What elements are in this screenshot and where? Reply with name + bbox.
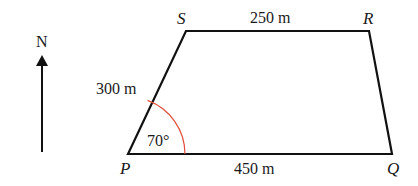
vertex-label-s: S	[177, 10, 186, 27]
side-label-sr: 250 m	[250, 10, 290, 26]
diagram-canvas	[0, 0, 418, 186]
vertex-label-q: Q	[387, 160, 399, 177]
north-arrow-icon	[36, 55, 48, 152]
north-label: N	[36, 34, 48, 50]
angle-label-p: 70°	[147, 133, 169, 149]
side-label-ps: 300 m	[96, 81, 136, 97]
vertex-label-p: P	[120, 160, 130, 177]
side-label-pq: 450 m	[234, 161, 274, 177]
vertex-label-r: R	[363, 10, 373, 27]
